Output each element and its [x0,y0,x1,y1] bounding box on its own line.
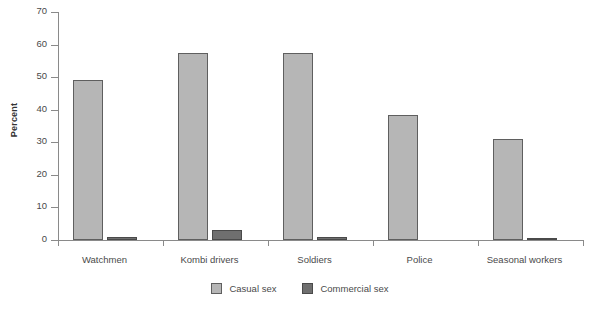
x-axis-category-label: Seasonal workers [487,254,563,265]
chart-legend: Casual sexCommercial sex [0,283,600,294]
bar-commercial-sex [317,237,347,240]
bar-casual-sex [73,80,103,240]
bar-casual-sex [388,115,418,240]
plot-area: 010203040506070 [58,12,583,240]
bar-commercial-sex [107,237,137,240]
x-axis-category-label: Police [407,254,433,265]
y-axis-tick: 50 [51,77,58,78]
bar-chart: Percent 010203040506070 WatchmenKombi dr… [0,0,600,314]
bar-commercial-sex [527,238,557,240]
legend-label: Commercial sex [320,283,388,294]
y-axis-tick-label: 20 [36,168,47,179]
y-axis-tick: 40 [51,110,58,111]
y-axis-tick: 0 [51,240,58,241]
x-axis-separator-tick [268,240,269,246]
bar-casual-sex [493,139,523,240]
y-axis-tick: 20 [51,175,58,176]
bars-layer [58,12,583,240]
y-axis-title: Percent [2,0,26,240]
y-axis-tick-label: 50 [36,70,47,81]
commercial-swatch [302,283,313,294]
x-axis-line [58,240,583,241]
y-axis-tick-label: 10 [36,200,47,211]
x-axis-category-label: Kombi drivers [180,254,238,265]
y-axis-tick-label: 30 [36,135,47,146]
bar-commercial-sex [212,230,242,240]
x-axis-separator-tick [478,240,479,246]
legend-label: Casual sex [229,283,276,294]
bar-casual-sex [283,53,313,240]
y-axis-tick-label: 60 [36,38,47,49]
legend-item[interactable]: Casual sex [211,283,276,294]
x-axis-separator-tick [583,240,584,246]
casual-swatch [211,283,222,294]
y-axis-tick-label: 0 [42,233,47,244]
y-axis-tick: 70 [51,12,58,13]
y-axis-tick-label: 70 [36,5,47,16]
y-axis-tick: 60 [51,45,58,46]
x-axis-category-label: Watchmen [82,254,127,265]
x-axis-separator-tick [373,240,374,246]
x-axis-separator-tick [163,240,164,246]
bar-casual-sex [178,53,208,240]
y-axis-tick-label: 40 [36,103,47,114]
legend-item[interactable]: Commercial sex [302,283,388,294]
y-axis-tick: 30 [51,142,58,143]
x-axis-category-label: Soldiers [297,254,331,265]
y-axis-tick: 10 [51,207,58,208]
y-axis-title-text: Percent [9,103,19,137]
x-axis-separator-tick [58,240,59,246]
